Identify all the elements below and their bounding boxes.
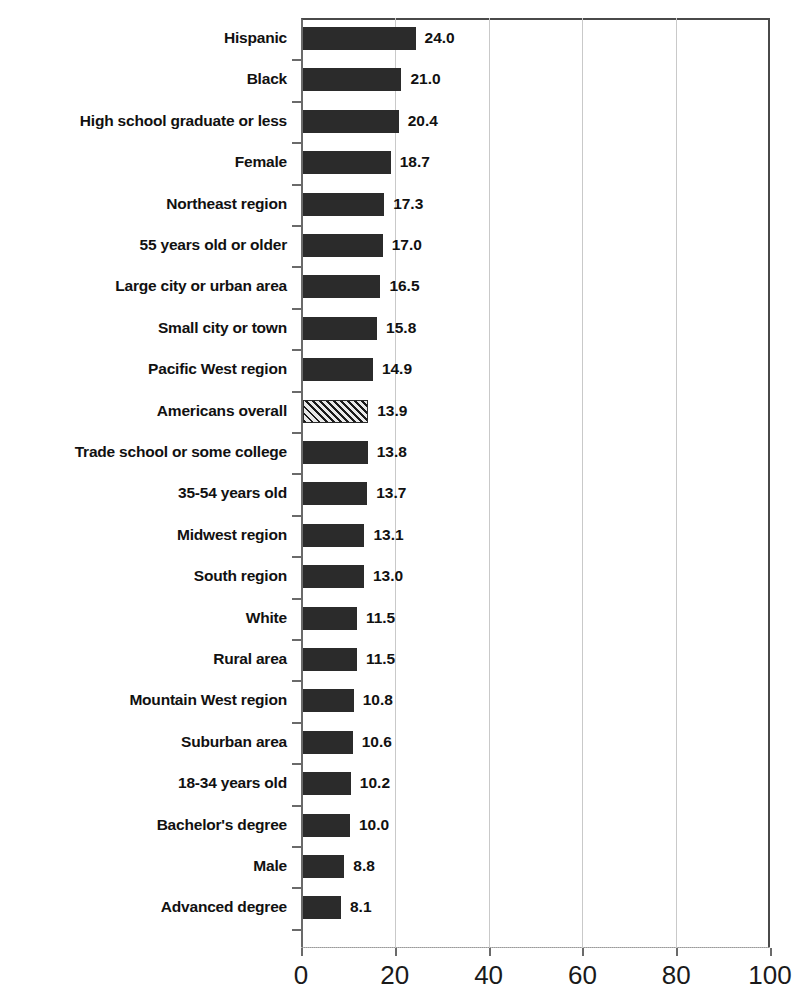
bar	[303, 68, 401, 91]
x-axis-tick-label: 20	[355, 959, 435, 991]
category-label: Pacific West region	[0, 360, 287, 378]
bar	[303, 441, 368, 464]
bar-row: White11.5	[0, 598, 799, 639]
bar	[303, 524, 364, 547]
x-axis-tick-label: 0	[261, 959, 341, 991]
category-label: 35-54 years old	[0, 484, 287, 502]
bar	[303, 565, 364, 588]
bar-value-label: 13.7	[376, 484, 406, 502]
y-axis-tick	[292, 929, 301, 931]
category-label: Northeast region	[0, 195, 287, 213]
category-label: Black	[0, 70, 287, 88]
category-label: Midwest region	[0, 526, 287, 544]
x-axis-tick-label: 40	[449, 959, 529, 991]
bar-value-label: 16.5	[389, 277, 419, 295]
category-label: 55 years old or older	[0, 236, 287, 254]
bar-value-label: 8.1	[350, 898, 372, 916]
category-label: Bachelor's degree	[0, 816, 287, 834]
bar-value-label: 13.1	[373, 526, 403, 544]
bar-value-label: 10.8	[363, 691, 393, 709]
category-label: Hispanic	[0, 29, 287, 47]
bar-row: Female18.7	[0, 142, 799, 183]
bar-row: Northeast region17.3	[0, 184, 799, 225]
bar-value-label: 21.0	[410, 70, 440, 88]
bar-row: Hispanic24.0	[0, 18, 799, 59]
category-label: High school graduate or less	[0, 112, 287, 130]
bar-value-label: 10.2	[360, 774, 390, 792]
bar-row: High school graduate or less20.4	[0, 101, 799, 142]
bar-row: Small city or town15.8	[0, 308, 799, 349]
bar-row: South region13.0	[0, 556, 799, 597]
category-label: Suburban area	[0, 733, 287, 751]
bar-value-label: 15.8	[386, 319, 416, 337]
bar	[303, 151, 391, 174]
category-label: Female	[0, 153, 287, 171]
bar-row: Mountain West region10.8	[0, 680, 799, 721]
bar	[303, 896, 341, 919]
bar-row: Midwest region13.1	[0, 515, 799, 556]
bar	[303, 317, 377, 340]
x-axis-tick-20	[395, 948, 397, 956]
bar	[303, 607, 357, 630]
bar-value-label: 20.4	[408, 112, 438, 130]
category-label: Trade school or some college	[0, 443, 287, 461]
category-label: 18-34 years old	[0, 774, 287, 792]
bar-value-label: 13.8	[377, 443, 407, 461]
bar	[303, 358, 373, 381]
bar	[303, 482, 367, 505]
bar-row: Bachelor's degree10.0	[0, 805, 799, 846]
x-axis-tick-0	[301, 948, 303, 956]
category-label: Large city or urban area	[0, 277, 287, 295]
bar-value-label: 10.0	[359, 816, 389, 834]
bar-value-label: 11.5	[366, 609, 395, 627]
bar-highlighted	[303, 400, 368, 423]
bar-value-label: 10.6	[362, 733, 392, 751]
bar-value-label: 17.3	[393, 195, 423, 213]
bar	[303, 110, 399, 133]
category-label: White	[0, 609, 287, 627]
bar-value-label: 8.8	[353, 857, 375, 875]
x-axis-tick-label: 100	[730, 959, 799, 991]
bar	[303, 731, 353, 754]
category-label: Mountain West region	[0, 691, 287, 709]
bar-value-label: 24.0	[425, 29, 455, 47]
bar-row: Suburban area10.6	[0, 722, 799, 763]
x-axis-tick-100	[770, 948, 772, 956]
bar	[303, 234, 383, 257]
x-axis-tick-80	[676, 948, 678, 956]
category-label: Small city or town	[0, 319, 287, 337]
x-axis-tick-40	[489, 948, 491, 956]
x-axis-tick-60	[582, 948, 584, 956]
bar-row: Pacific West region14.9	[0, 349, 799, 390]
bar-row: Advanced degree8.1	[0, 887, 799, 928]
bar-value-label: 13.0	[373, 567, 403, 585]
bar-row: Large city or urban area16.5	[0, 266, 799, 307]
bar	[303, 193, 384, 216]
category-label: Rural area	[0, 650, 287, 668]
bar	[303, 814, 350, 837]
bar	[303, 648, 357, 671]
category-label: Americans overall	[0, 402, 287, 420]
bar-row: Trade school or some college13.8	[0, 432, 799, 473]
bar	[303, 689, 354, 712]
bar-value-label: 13.9	[377, 402, 407, 420]
bar-chart: Hispanic24.0Black21.0High school graduat…	[0, 0, 799, 1006]
bar-row: Black21.0	[0, 59, 799, 100]
x-axis-tick-label: 80	[636, 959, 716, 991]
bar-row: 18-34 years old10.2	[0, 763, 799, 804]
bar	[303, 855, 344, 878]
bar-row: Male8.8	[0, 846, 799, 887]
bar	[303, 772, 351, 795]
bar-value-label: 18.7	[400, 153, 430, 171]
bar-row: Rural area11.5	[0, 639, 799, 680]
bar-value-label: 17.0	[392, 236, 422, 254]
bar-value-label: 14.9	[382, 360, 412, 378]
category-label: South region	[0, 567, 287, 585]
x-axis-tick-label: 60	[542, 959, 622, 991]
bar-rows: Hispanic24.0Black21.0High school graduat…	[0, 18, 799, 948]
bar-row: 55 years old or older17.0	[0, 225, 799, 266]
bar-row: 35-54 years old13.7	[0, 473, 799, 514]
category-label: Male	[0, 857, 287, 875]
bar-value-label: 11.5	[366, 650, 395, 668]
bar	[303, 275, 380, 298]
